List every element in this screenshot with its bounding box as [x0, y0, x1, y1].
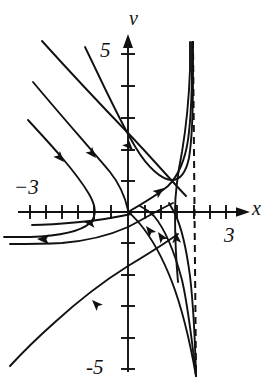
flow-arrow-2: [85, 147, 99, 161]
x-axis-label: x: [252, 198, 261, 218]
trajectory-lower-left-curve: [10, 234, 178, 366]
v-axis-arrowhead: [123, 34, 133, 48]
trajectory-group: [4, 41, 196, 376]
v-axis-label: v: [129, 8, 138, 28]
x-axis-arrowhead: [236, 207, 250, 217]
x-tick-label-neg3: −3: [14, 177, 39, 198]
x-tick-label-3: 3: [224, 225, 235, 246]
phase-portrait-figure: v x 5 -5 −3 3: [0, 0, 277, 387]
v-tick-label-neg5: -5: [86, 357, 104, 378]
trajectory-branch-upper-right-outer: [85, 42, 193, 180]
plot-canvas: [0, 0, 277, 387]
v-tick-label-5: 5: [100, 40, 111, 61]
trajectory-upper-left-2: [33, 82, 128, 210]
trajectory-branch-inner-up-to-asymptote: [128, 42, 192, 212]
flow-arrow-10: [89, 297, 103, 311]
